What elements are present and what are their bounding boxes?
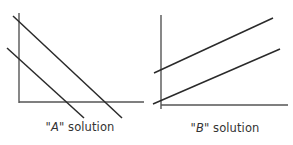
- caption-rest: " solution: [59, 120, 115, 134]
- panel-b: [153, 15, 288, 109]
- panel-a: [7, 13, 144, 118]
- caption-rest: " solution: [204, 121, 260, 135]
- panel-b-caption: "B" solution: [191, 121, 260, 135]
- panel-b-lower-line: [153, 49, 280, 104]
- panel-b-upper-line: [154, 18, 273, 73]
- panel-a-caption: "A" solution: [46, 120, 115, 134]
